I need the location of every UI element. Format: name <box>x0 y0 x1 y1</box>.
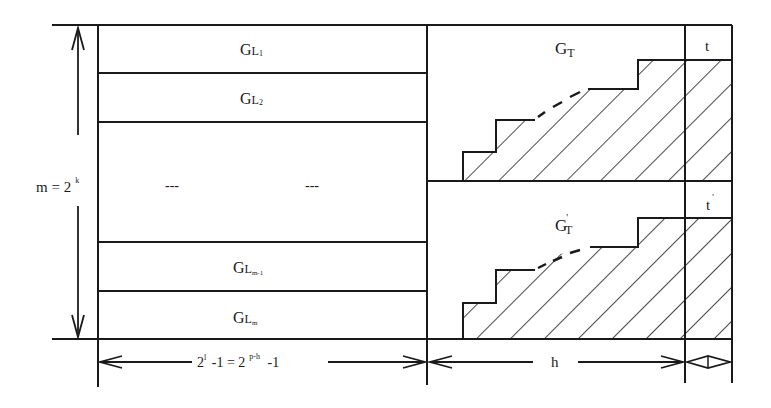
m-label: m = 2k <box>36 176 79 195</box>
ellipsis-left: --- <box>165 178 179 193</box>
gt-label: GT <box>555 39 575 60</box>
gl2-label: GL2 <box>240 90 263 107</box>
gl1-label: GL1 <box>240 41 263 58</box>
gt-prime-label: G'T <box>555 212 573 237</box>
glm-label: GLm <box>233 309 258 327</box>
ellipsis-right: --- <box>305 178 319 193</box>
gt-staircase <box>463 60 732 180</box>
t-dimension-arrow <box>687 356 730 368</box>
glm1-label: GLm-1 <box>233 259 264 277</box>
t-label: t <box>705 38 710 54</box>
t-prime-label: t' <box>706 192 714 213</box>
width-dimension-label: 2l -1 = 2p-h -1 <box>197 352 279 370</box>
width-dimension-arrow <box>100 356 425 368</box>
gt-prime-staircase <box>463 218 732 338</box>
h-label: h <box>551 354 559 370</box>
memory-layout-diagram: m = 2k GL1 GL2 --- --- GLm-1 GLm GT G'T … <box>0 0 771 408</box>
